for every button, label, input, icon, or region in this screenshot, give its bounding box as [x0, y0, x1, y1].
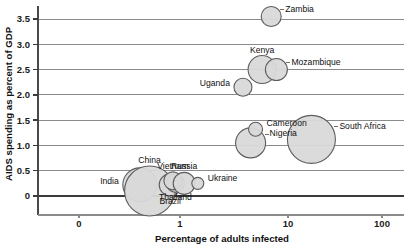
y-tick-label: 3.0 — [17, 39, 30, 50]
y-tick-label: 2.0 — [17, 89, 30, 100]
gridlines-group — [38, 19, 404, 196]
bubble-mozambique — [265, 59, 287, 81]
point-label-south-africa: South Africa — [339, 121, 386, 131]
y-tick-label: 0.5 — [17, 165, 31, 176]
point-label-uganda: Uganda — [200, 78, 230, 88]
point-label-zambia: Zambia — [285, 4, 314, 14]
y-tick-label: 3.5 — [17, 13, 31, 24]
bubble-cameroon — [249, 122, 263, 136]
x-tick-label: 10 — [283, 218, 294, 229]
bubble-chart: 00.51.01.52.02.53.03.5 0110100 IndiaChin… — [0, 0, 408, 244]
bubbles-group — [123, 6, 336, 215]
x-tick-label: 100 — [374, 218, 390, 229]
x-tick-label: 1 — [177, 218, 183, 229]
point-label-ukraine: Ukraine — [208, 173, 238, 183]
x-tick-labels-group: 0110100 — [76, 218, 390, 229]
point-label-cameroon: Cameroon — [267, 118, 307, 128]
bubble-ukraine — [192, 177, 204, 189]
y-tick-label: 1.0 — [17, 140, 30, 151]
chart-canvas: 00.51.01.52.02.53.03.5 0110100 IndiaChin… — [0, 0, 408, 244]
point-label-mozambique: Mozambique — [291, 57, 340, 67]
y-tick-label: 0 — [25, 190, 30, 201]
point-label-russia: Russia — [171, 161, 197, 171]
point-label-nigeria: Nigeria — [270, 128, 297, 138]
x-axis-title: Percentage of adults infected — [155, 233, 289, 244]
bubble-uganda — [234, 78, 252, 96]
point-label-thailand: Thailand — [159, 192, 192, 202]
axes-group — [38, 6, 404, 215]
y-tick-label: 2.5 — [17, 64, 31, 75]
point-label-kenya: Kenya — [250, 45, 275, 55]
y-axis-title: AIDS spending as percent of GDP — [3, 26, 14, 181]
point-label-india: India — [100, 176, 119, 186]
y-tick-label: 1.5 — [17, 115, 31, 126]
y-tick-labels-group: 00.51.01.52.02.53.03.5 — [17, 13, 31, 201]
x-tick-label: 0 — [76, 218, 81, 229]
bubble-zambia — [261, 6, 281, 26]
